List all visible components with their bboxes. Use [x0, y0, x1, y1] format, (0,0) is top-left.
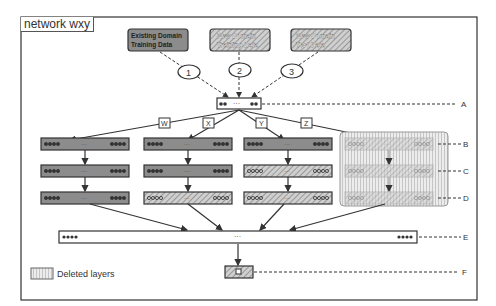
- svg-text:Test Data: Test Data: [296, 41, 325, 48]
- svg-text:X: X: [206, 120, 211, 127]
- svg-text:Z: Z: [304, 120, 309, 127]
- svg-text:···: ···: [284, 141, 290, 147]
- legend-swatch: [31, 268, 53, 279]
- layer-y-c: ···: [244, 165, 332, 177]
- step-2: 2: [229, 63, 251, 77]
- svg-text:···: ···: [385, 141, 391, 147]
- branch-y: Y: [256, 118, 267, 128]
- layer-x-c: ···: [144, 165, 232, 177]
- svg-text:···: ···: [284, 168, 290, 174]
- label-f: F: [462, 268, 467, 277]
- branch-x: X: [203, 118, 214, 128]
- svg-text:Training Data: Training Data: [131, 41, 173, 49]
- layer-w-b: ···: [41, 138, 129, 150]
- legend-label: Deleted layers: [57, 269, 115, 279]
- layer-z-c: ···: [345, 165, 433, 177]
- svg-text:Training Data: Training Data: [217, 41, 259, 49]
- source-new-test: New Domain Test Data: [291, 29, 351, 51]
- label-d: D: [463, 194, 469, 203]
- layer-z-b: ···: [345, 138, 433, 150]
- svg-text:···: ···: [233, 100, 240, 107]
- layer-y-b: ···: [244, 138, 332, 150]
- svg-text:···: ···: [385, 195, 391, 201]
- branch-w: W: [159, 118, 170, 128]
- step-1: 1: [178, 65, 200, 79]
- label-e: E: [463, 233, 468, 242]
- svg-text:Y: Y: [259, 120, 264, 127]
- source-existing-training: Existing Domain Training Data: [128, 29, 188, 51]
- layer-y-d: ···: [244, 192, 332, 204]
- svg-text:···: ···: [284, 195, 290, 201]
- svg-text:···: ···: [81, 195, 87, 201]
- svg-text:···: ···: [385, 168, 391, 174]
- source-new-training: New Domain Training Data: [210, 29, 270, 51]
- label-a: A: [461, 100, 467, 109]
- svg-text:New Domain: New Domain: [296, 32, 335, 39]
- svg-text:Existing Domain: Existing Domain: [131, 32, 182, 40]
- layer-w-d: ···: [41, 192, 129, 204]
- label-b: B: [463, 140, 468, 149]
- legend: Deleted layers: [31, 268, 115, 279]
- page-title: network wxy: [21, 17, 94, 32]
- diagram-canvas: Existing Domain Training Data New Domain…: [0, 0, 496, 306]
- label-c: C: [463, 167, 469, 176]
- svg-text:···: ···: [184, 141, 190, 147]
- svg-text:···: ···: [234, 233, 241, 240]
- svg-text:1: 1: [186, 68, 191, 78]
- layer-x-d: ···: [144, 192, 232, 204]
- layer-e: ···: [59, 231, 417, 243]
- svg-text:···: ···: [81, 141, 87, 147]
- branch-z: Z: [301, 118, 312, 128]
- svg-text:···: ···: [184, 195, 190, 201]
- svg-text:3: 3: [289, 67, 294, 77]
- layer-a: ···: [217, 98, 261, 109]
- network-diagram: Existing Domain Training Data New Domain…: [0, 0, 496, 306]
- layer-f: [225, 266, 253, 278]
- layer-z-d: ···: [345, 192, 433, 204]
- svg-text:W: W: [161, 120, 168, 127]
- layer-x-b: ···: [144, 138, 232, 150]
- step-3: 3: [281, 64, 303, 78]
- svg-text:New Domain: New Domain: [217, 32, 256, 39]
- svg-text:···: ···: [184, 168, 190, 174]
- layer-w-c: ···: [41, 165, 129, 177]
- svg-text:···: ···: [81, 168, 87, 174]
- svg-text:2: 2: [237, 66, 242, 76]
